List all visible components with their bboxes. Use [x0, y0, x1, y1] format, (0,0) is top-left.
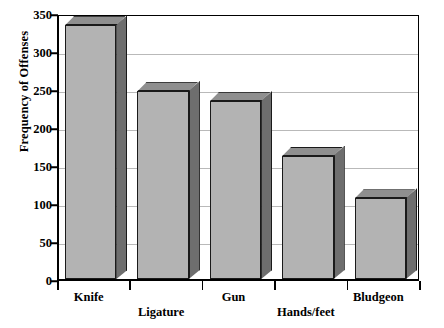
bar-top-face [282, 147, 342, 156]
bar-side-face [334, 146, 345, 279]
bar [137, 82, 197, 279]
y-axis-tick-label: 300 [2, 46, 52, 61]
x-axis-category-label: Ligature [138, 305, 184, 320]
bar-side-face [116, 15, 127, 279]
y-axis-tick-label: 0 [2, 274, 52, 289]
bar-front-face [210, 101, 261, 279]
bar [355, 189, 415, 279]
bar-side-face [189, 81, 200, 279]
y-axis-tick-label: 50 [2, 236, 52, 251]
y-axis-tick-label: 250 [2, 84, 52, 99]
bar [282, 147, 342, 279]
x-axis-category-label: Knife [74, 290, 104, 305]
bar-front-face [282, 156, 333, 279]
bar-front-face [65, 25, 116, 279]
bar-chart: Frequency of Offenses 050100150200250300… [0, 0, 444, 328]
y-axis-tick-label: 350 [2, 8, 52, 23]
bar [65, 16, 125, 279]
y-axis-tick-label: 100 [2, 198, 52, 213]
bar [210, 92, 270, 279]
x-axis-category-label: Bludgeon [353, 290, 404, 305]
plot-area [57, 15, 419, 281]
bar-top-face [137, 82, 197, 91]
bar-top-face [210, 92, 270, 101]
y-axis-tick-label: 150 [2, 160, 52, 175]
bar-top-face [65, 16, 125, 25]
y-axis-tick-label: 200 [2, 122, 52, 137]
x-axis-category-label: Gun [222, 290, 246, 305]
x-axis-tick-mark [129, 281, 131, 290]
x-axis-tick-mark [57, 281, 59, 290]
x-axis-tick-mark [274, 281, 276, 290]
x-axis-tick-mark [202, 281, 204, 290]
x-axis-tick-mark [347, 281, 349, 290]
bar-front-face [137, 91, 188, 279]
bar-side-face [406, 188, 417, 279]
bar-top-face [355, 189, 415, 198]
x-axis-category-label: Hands/feet [277, 305, 335, 320]
x-axis-tick-mark [419, 281, 421, 290]
bar-side-face [261, 91, 272, 279]
bar-front-face [355, 198, 406, 279]
